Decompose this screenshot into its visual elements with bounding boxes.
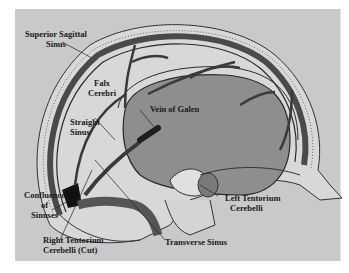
label-line: Transverse Sinus xyxy=(165,237,227,247)
label-line: Confluence xyxy=(24,190,65,200)
label-line: Falx xyxy=(88,78,116,88)
label-superior-sagittal-sinus: Superior Sagittal Sinus xyxy=(25,29,87,49)
label-line: Sinus xyxy=(25,39,87,49)
label-line: Sinus xyxy=(70,127,100,137)
label-line: Cerebri xyxy=(88,88,116,98)
label-right-tentorium: Right Tentorium Cerebelli (Cut) xyxy=(43,235,104,255)
label-line: Left Tentorium xyxy=(225,193,281,203)
left-tentorium-structure xyxy=(198,173,218,197)
label-straight-sinus: Straight Sinus xyxy=(70,117,100,137)
label-confluence-of-sinuses: Confluence of Sinuses xyxy=(24,190,65,220)
label-line: Vein of Galen xyxy=(150,104,199,114)
label-line: Right Tentorium xyxy=(43,235,104,245)
label-line: of xyxy=(24,200,65,210)
label-left-tentorium: Left Tentorium Cerebelli xyxy=(225,193,281,213)
label-line: Superior Sagittal xyxy=(25,29,87,39)
label-falx-cerebri: Falx Cerebri xyxy=(88,78,116,98)
label-vein-of-galen: Vein of Galen xyxy=(150,104,199,114)
label-line: Cerebelli (Cut) xyxy=(43,245,104,255)
label-transverse-sinus: Transverse Sinus xyxy=(165,237,227,247)
label-line: Straight xyxy=(70,117,100,127)
label-line: Sinuses xyxy=(24,210,65,220)
label-line: Cerebelli xyxy=(225,203,281,213)
